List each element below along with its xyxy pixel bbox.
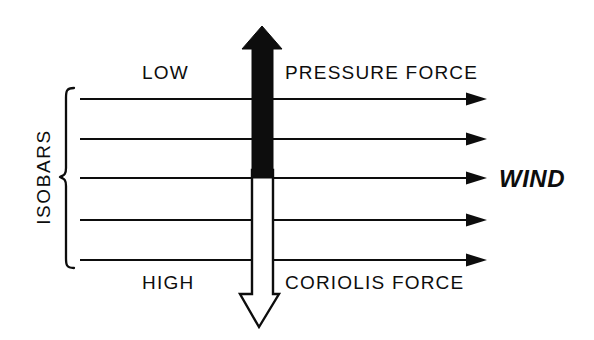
isobar-line-3-wind (80, 172, 487, 185)
label-pressure-force: PRESSURE FORCE (285, 62, 478, 84)
coriolis-force-arrow (240, 170, 279, 327)
label-isobars: ISOBARS (33, 129, 55, 225)
label-coriolis-force: CORIOLIS FORCE (285, 272, 464, 294)
label-low: LOW (142, 62, 189, 84)
isobar-line-4 (80, 214, 487, 227)
isobar-line-2 (80, 133, 487, 146)
label-high: HIGH (142, 272, 194, 294)
isobar-group (80, 93, 487, 267)
isobar-line-5 (80, 254, 487, 267)
label-wind: WIND (499, 165, 565, 193)
pressure-force-arrow (242, 26, 282, 178)
isobars-brace (60, 88, 74, 268)
isobar-line-1 (80, 93, 487, 106)
wind-force-diagram: LOW PRESSURE FORCE HIGH CORIOLIS FORCE W… (0, 0, 594, 340)
